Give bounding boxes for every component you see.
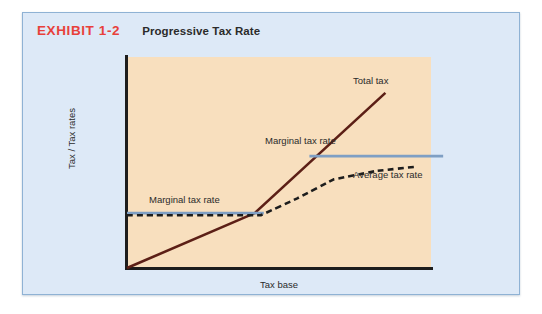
series-label-average-tax-rate: Average tax rate bbox=[353, 169, 423, 180]
exhibit-panel: EXHIBIT 1-2 Progressive Tax Rate Tax / T… bbox=[22, 12, 520, 295]
series-label-marginal-tax-rate-lower: Marginal tax rate bbox=[149, 194, 220, 205]
series-label-marginal-tax-rate-upper: Marginal tax rate bbox=[265, 135, 336, 146]
series-label-total-tax: Total tax bbox=[353, 75, 388, 86]
progressive-tax-rate-chart: Tax / Tax rates Tax base Total tax Margi… bbox=[23, 13, 521, 296]
chart-series-svg bbox=[23, 13, 521, 296]
